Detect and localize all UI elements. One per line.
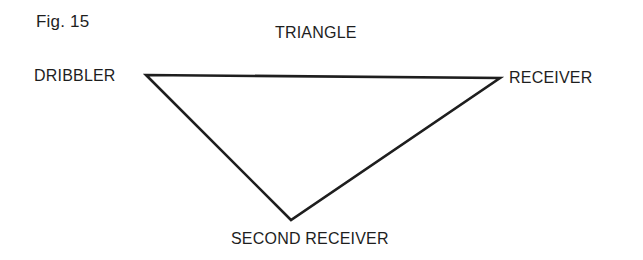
triangle-diagram	[0, 0, 643, 260]
triangle-shape	[146, 75, 500, 220]
node-second-receiver-label: SECOND RECEIVER	[231, 230, 389, 248]
node-receiver-label: RECEIVER	[509, 69, 592, 87]
node-dribbler-label: DRIBBLER	[34, 67, 116, 85]
